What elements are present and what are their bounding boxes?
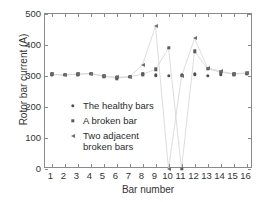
dot-marker <box>71 104 74 107</box>
y-axis-tick <box>45 76 48 77</box>
x-axis-tick <box>182 164 183 167</box>
legend-label: Two adjacent broken bars <box>83 130 139 152</box>
x-axis-tick-label: 12 <box>188 170 199 181</box>
y-axis-tick-label: 500 <box>25 8 41 19</box>
x-axis-tick <box>234 164 235 167</box>
y-axis-tick-label: 200 <box>25 101 41 112</box>
x-axis-tick <box>130 164 131 167</box>
x-axis-tick-label: 16 <box>240 170 251 181</box>
x-axis-tick-label: 14 <box>214 170 225 181</box>
legend-marker-slot <box>63 100 83 112</box>
x-axis-tick-top <box>234 14 235 17</box>
triangle-left-marker <box>193 36 197 40</box>
triangle-left-marker <box>245 71 249 75</box>
x-axis-tick-top <box>104 14 105 17</box>
square-marker <box>167 46 170 49</box>
x-axis-tick <box>156 164 157 167</box>
x-axis-tick-label: 10 <box>162 170 173 181</box>
square-marker <box>71 119 74 122</box>
legend-marker-slot <box>63 115 83 127</box>
x-axis-tick-label: 7 <box>126 170 131 181</box>
legend-label: The healthy bars <box>83 100 154 111</box>
y-axis-tick-right <box>248 14 251 15</box>
x-axis-tick-label: 5 <box>100 170 105 181</box>
triangle-left-marker <box>141 63 145 67</box>
x-axis-tick-top <box>78 14 79 17</box>
triangle-left-marker <box>50 72 54 76</box>
y-axis-tick-right <box>248 76 251 77</box>
x-axis-tick-label: 6 <box>113 170 118 181</box>
y-axis-tick <box>45 14 48 15</box>
x-axis-tick-labels: 12345678910111213141516 <box>44 170 252 184</box>
x-axis-tick <box>247 164 248 167</box>
y-axis-tick <box>45 138 48 139</box>
x-axis-tick-label: 1 <box>48 170 53 181</box>
x-axis-tick-top <box>65 14 66 17</box>
square-marker <box>154 68 157 71</box>
triangle-left-marker <box>154 24 158 28</box>
x-axis-tick <box>104 164 105 167</box>
square-marker <box>141 72 144 75</box>
x-axis-tick-top <box>195 14 196 17</box>
x-axis-tick <box>117 164 118 167</box>
triangle-left-marker <box>115 75 119 79</box>
x-axis-tick-top <box>52 14 53 17</box>
triangle-left-marker <box>71 134 75 138</box>
triangle-left-marker <box>232 72 236 76</box>
x-axis-tick-top <box>182 14 183 17</box>
triangle-left-marker <box>180 74 184 78</box>
x-axis-tick-label: 3 <box>74 170 79 181</box>
x-axis-tick-label: 13 <box>201 170 212 181</box>
legend-marker-slot <box>63 130 83 142</box>
x-axis-tick-top <box>156 14 157 17</box>
x-axis-tick-top <box>117 14 118 17</box>
x-axis-tick-top <box>130 14 131 17</box>
x-axis-tick-label: 4 <box>87 170 92 181</box>
chart-legend: The healthy barsA broken barTwo adjacent… <box>63 100 193 155</box>
triangle-left-marker <box>219 69 223 73</box>
x-axis-tick-top <box>208 14 209 17</box>
x-axis-tick <box>52 164 53 167</box>
y-axis-tick <box>45 45 48 46</box>
plot-frame: The healthy barsA broken barTwo adjacent… <box>44 13 252 168</box>
x-axis-tick <box>195 164 196 167</box>
x-axis-tick-top <box>91 14 92 17</box>
rotor-bar-current-chart: Rotor bar current (A) 0100200300400500 T… <box>0 0 265 202</box>
triangle-left-marker <box>63 73 67 77</box>
x-axis-tick-top <box>221 14 222 17</box>
x-axis-tick-top <box>169 14 170 17</box>
y-axis-tick-right <box>248 107 251 108</box>
x-axis-tick <box>78 164 79 167</box>
y-axis-tick-labels: 0100200300400500 <box>8 13 41 168</box>
legend-item: Two adjacent broken bars <box>63 130 193 152</box>
x-axis-tick-label: 11 <box>176 170 186 181</box>
legend-label: A broken bar <box>83 115 137 126</box>
y-axis-tick <box>45 107 48 108</box>
x-axis-title: Bar number <box>44 184 252 195</box>
legend-item: A broken bar <box>63 115 193 127</box>
x-axis-tick-top <box>143 14 144 17</box>
x-axis-tick-label: 9 <box>152 170 157 181</box>
y-axis-tick-right <box>248 138 251 139</box>
y-axis-tick-label: 0 <box>36 163 41 174</box>
y-axis-tick-label: 400 <box>25 39 41 50</box>
y-axis-tick-label: 300 <box>25 70 41 81</box>
triangle-left-marker <box>102 74 106 78</box>
x-axis-tick <box>208 164 209 167</box>
x-axis-tick <box>169 164 170 167</box>
y-axis-tick-right <box>248 45 251 46</box>
x-axis-tick <box>143 164 144 167</box>
y-axis-tick-label: 100 <box>25 132 41 143</box>
x-axis-tick-top <box>247 14 248 17</box>
x-axis-tick <box>221 164 222 167</box>
legend-item: The healthy bars <box>63 100 193 112</box>
x-axis-tick <box>65 164 66 167</box>
triangle-left-marker <box>89 72 93 76</box>
triangle-left-marker <box>128 75 132 79</box>
x-axis-tick <box>91 164 92 167</box>
x-axis-tick-label: 2 <box>61 170 66 181</box>
x-axis-tick-label: 15 <box>227 170 238 181</box>
square-marker <box>193 49 196 52</box>
x-axis-tick-label: 8 <box>139 170 144 181</box>
triangle-left-marker <box>206 66 210 70</box>
